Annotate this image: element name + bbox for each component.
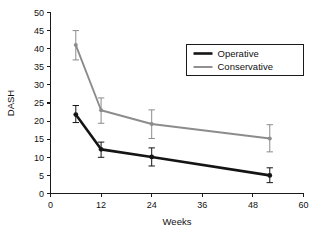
y-axis-title: DASH — [5, 90, 16, 117]
x-tick-label: 0 — [48, 200, 53, 210]
data-point — [149, 155, 154, 160]
chart-legend: OperativeConservative — [187, 45, 304, 76]
x-tick-label: 24 — [147, 200, 157, 210]
data-point — [267, 173, 272, 178]
legend-label-operative: Operative — [218, 48, 259, 59]
y-tick-label: 15 — [34, 134, 44, 144]
series-line — [76, 115, 270, 176]
x-tick-label: 36 — [197, 200, 207, 210]
y-tick-label: 45 — [34, 26, 44, 36]
y-axis-ticks: 05101520253035404550 — [34, 8, 51, 199]
y-tick-label: 0 — [39, 189, 44, 199]
data-point — [99, 108, 103, 112]
series-operative — [73, 106, 273, 183]
y-tick-label: 20 — [34, 116, 44, 126]
x-axis-title: Weeks — [163, 216, 192, 227]
data-point — [150, 122, 154, 126]
data-point — [268, 136, 272, 140]
line-chart: 05101520253035404550 01224364860 Weeks D… — [0, 0, 319, 235]
data-point — [74, 43, 78, 47]
y-tick-label: 30 — [34, 80, 44, 90]
x-axis-ticks: 01224364860 — [48, 194, 309, 210]
legend-label-conservative: Conservative — [218, 61, 273, 72]
data-point — [73, 112, 78, 117]
x-tick-label: 48 — [248, 200, 258, 210]
y-tick-label: 40 — [34, 44, 44, 54]
y-tick-label: 25 — [34, 98, 44, 108]
chart-container: 05101520253035404550 01224364860 Weeks D… — [0, 0, 319, 235]
y-tick-label: 50 — [34, 8, 44, 18]
x-tick-label: 12 — [96, 200, 106, 210]
y-tick-label: 35 — [34, 62, 44, 72]
y-tick-label: 10 — [34, 153, 44, 163]
y-tick-label: 5 — [39, 171, 44, 181]
data-point — [99, 147, 104, 152]
x-tick-label: 60 — [298, 200, 308, 210]
